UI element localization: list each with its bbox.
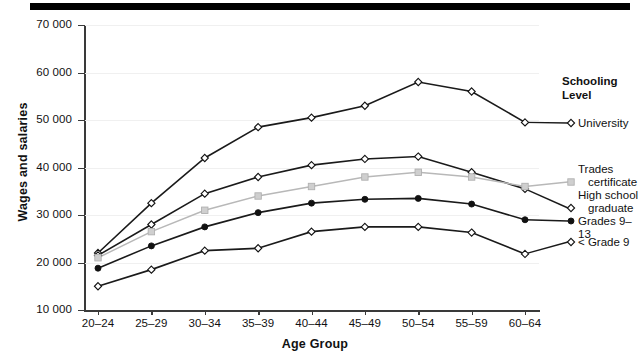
legend-leader-line — [525, 220, 568, 221]
data-point-marker — [308, 183, 314, 189]
legend-title: Schooling Level — [562, 74, 638, 102]
data-point-marker — [202, 224, 208, 230]
legend-entry: graduate — [578, 202, 642, 215]
data-point-marker — [255, 124, 262, 131]
legend-entry: certificate — [578, 176, 642, 189]
data-point-marker — [148, 266, 155, 273]
data-point-marker — [415, 223, 422, 230]
legend-entry: Trades — [578, 163, 642, 176]
data-point-marker — [522, 217, 528, 223]
data-point-marker — [361, 102, 368, 109]
legend-title-line1: Schooling — [562, 75, 618, 87]
data-point-marker — [521, 119, 528, 126]
data-point-marker — [308, 114, 315, 121]
data-point-marker — [362, 196, 368, 202]
data-point-marker — [415, 195, 421, 201]
data-point-marker — [148, 221, 155, 228]
data-point-marker — [567, 119, 574, 126]
data-point-marker — [568, 179, 574, 185]
data-point-marker — [94, 283, 101, 290]
data-point-marker — [362, 174, 368, 180]
legend-entry: < Grade 9 — [578, 236, 642, 249]
legend-entry: High school — [578, 189, 642, 202]
data-point-marker — [567, 204, 574, 211]
data-point-marker — [415, 78, 422, 85]
legend-leader-line — [525, 242, 568, 254]
legend-leader-line — [525, 189, 568, 208]
data-point-marker — [468, 174, 474, 180]
data-point-marker — [469, 201, 475, 207]
data-point-marker — [255, 173, 262, 180]
legend-leader-line — [525, 182, 568, 187]
data-point-marker — [201, 190, 208, 197]
data-point-marker — [522, 183, 528, 189]
data-point-marker — [202, 207, 208, 213]
data-point-marker — [361, 223, 368, 230]
data-point-marker — [468, 88, 475, 95]
data-point-marker — [468, 229, 475, 236]
data-point-marker — [201, 247, 208, 254]
data-point-marker — [148, 228, 154, 234]
data-point-marker — [255, 210, 261, 216]
data-point-marker — [415, 169, 421, 175]
data-point-marker — [521, 250, 528, 257]
data-point-marker — [255, 245, 262, 252]
data-point-marker — [255, 193, 261, 199]
data-point-marker — [148, 243, 154, 249]
data-point-marker — [415, 153, 422, 160]
data-point-marker — [309, 200, 315, 206]
data-point-marker — [361, 155, 368, 162]
data-point-marker — [95, 255, 101, 261]
data-point-marker — [308, 228, 315, 235]
legend-leader-line — [525, 122, 568, 123]
data-point-marker — [568, 218, 574, 224]
data-point-marker — [567, 238, 574, 245]
legend-entry: University — [578, 117, 642, 130]
data-point-marker — [308, 162, 315, 169]
data-point-marker — [95, 265, 101, 271]
legend-title-line2: Level — [562, 89, 591, 101]
